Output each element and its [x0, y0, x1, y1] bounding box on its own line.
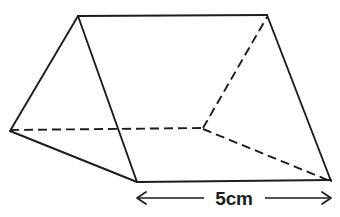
- edge-hidden-left: [10, 128, 203, 130]
- edge-bottom: [137, 180, 331, 182]
- dimension-label: 5cm: [215, 188, 252, 209]
- edge-back-apex-to-back-bottom: [267, 15, 331, 181]
- edge-top-ridge: [78, 15, 267, 16]
- dimension-line-group: 5cm: [137, 188, 331, 209]
- edge-front-apex-to-front-left: [10, 16, 78, 131]
- prism-drawing: 5cm: [0, 0, 340, 217]
- triangular-prism-figure: 5cm: [0, 0, 340, 217]
- edge-front-left-to-front-bottom: [10, 131, 137, 182]
- edge-hidden-back-upper: [203, 17, 267, 128]
- hidden-edges-group: [10, 17, 330, 181]
- solid-edges-group: [10, 15, 331, 182]
- edge-front-bottom-to-front-apex: [78, 16, 137, 182]
- edge-hidden-back-lower: [203, 129, 330, 181]
